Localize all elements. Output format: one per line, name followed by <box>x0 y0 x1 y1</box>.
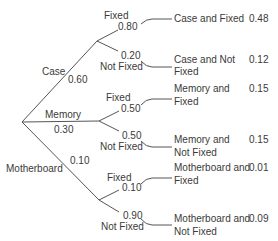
sub-prob-mb-fixed: 0.10 <box>122 182 141 193</box>
sub-prob-memory-notfixed: 0.50 <box>122 130 141 141</box>
outcome-4-prob: 0.15 <box>249 134 268 145</box>
branch-prob-motherboard: 0.10 <box>70 155 89 166</box>
sub-label-memory-fixed: Fixed <box>106 92 130 103</box>
sub-prob-mb-notfixed: 0.90 <box>123 210 142 221</box>
outcome-3-line1: Memory and <box>174 83 230 94</box>
edge-root-memory <box>22 121 99 122</box>
leaf-connector-6 <box>141 219 172 225</box>
branch-label-case: Case <box>42 66 65 77</box>
outcome-2-prob: 0.12 <box>249 54 268 65</box>
edge-memory-notfixed <box>99 121 119 131</box>
leaf-connector-4 <box>141 141 172 147</box>
outcome-3-prob: 0.15 <box>249 83 268 94</box>
leaf-connector-3 <box>141 99 172 105</box>
edge-case-fixed <box>97 30 118 41</box>
sub-label-memory-notfixed: Not Fixed <box>100 141 143 152</box>
sub-prob-memory-fixed: 0.50 <box>121 103 140 114</box>
outcome-4-line2: Not Fixed <box>174 147 217 158</box>
leaf-connector-5 <box>141 178 172 184</box>
sub-label-mb-notfixed: Not Fixed <box>101 221 144 232</box>
branch-label-motherboard: Motherboard <box>6 163 63 174</box>
outcome-2-line1: Case and Not <box>174 54 235 65</box>
sub-label-case-notfixed: Not Fixed <box>100 61 143 72</box>
outcome-6-line1: Motherboard and <box>174 213 250 224</box>
leaf-connector-2 <box>141 61 172 67</box>
branch-label-memory: Memory <box>45 109 81 120</box>
leaf-connector-1 <box>141 19 172 24</box>
outcome-5-prob: 0.01 <box>249 162 268 173</box>
outcome-6-line2: Not Fixed <box>174 226 217 237</box>
edge-case-notfixed <box>97 41 118 51</box>
outcome-1-prob: 0.48 <box>249 13 268 24</box>
outcome-2-line2: Fixed <box>174 66 198 77</box>
sub-prob-case-notfixed: 0.20 <box>121 50 140 61</box>
outcome-3-line2: Fixed <box>174 96 198 107</box>
branch-prob-case: 0.60 <box>68 74 87 85</box>
edge-mb-notfixed <box>99 200 119 212</box>
tree-edges <box>0 0 278 241</box>
outcome-5-line1: Motherboard and <box>174 162 250 173</box>
outcome-5-line2: Fixed <box>174 175 198 186</box>
outcome-4-line1: Memory and <box>174 134 230 145</box>
sub-prob-case-fixed: 0.80 <box>118 21 137 32</box>
sub-label-case-fixed: Fixed <box>104 10 128 21</box>
branch-prob-memory: 0.30 <box>54 124 73 135</box>
edge-mb-fixed <box>99 190 119 200</box>
outcome-1-line1: Case and Fixed <box>174 13 244 24</box>
edge-memory-fixed <box>99 111 119 121</box>
outcome-6-prob: 0.09 <box>249 213 268 224</box>
